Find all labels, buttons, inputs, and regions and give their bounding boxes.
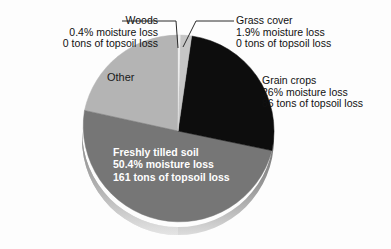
callout-grass-cover-topsoil: 0 tons of topsoil loss — [236, 38, 331, 50]
slice-label-freshly-tilled-soil-topsoil: 161 tons of topsoil loss — [113, 171, 230, 183]
slice-label-freshly-tilled-soil: Freshly tilled soil 50.4% moisture loss … — [113, 146, 230, 183]
pie-chart-figure: Woods 0.4% moisture loss 0 tons of topso… — [0, 0, 391, 249]
callout-grain-crops-title: Grain crops — [262, 75, 363, 87]
callout-grass-cover-title: Grass cover — [236, 15, 331, 27]
pie-slice-grain-crops — [178, 36, 274, 151]
callout-grain-crops-topsoil: 86 tons of topsoil loss — [262, 98, 363, 110]
callout-woods-title: Woods — [8, 15, 158, 27]
callout-woods: Woods 0.4% moisture loss 0 tons of topso… — [8, 15, 158, 50]
slice-label-freshly-tilled-soil-title: Freshly tilled soil — [113, 146, 230, 158]
slice-label-freshly-tilled-soil-moisture: 50.4% moisture loss — [113, 158, 230, 170]
callout-grain-crops: Grain crops 26% moisture loss 86 tons of… — [262, 75, 363, 110]
callout-woods-topsoil: 0 tons of topsoil loss — [8, 38, 158, 50]
callout-grass-cover: Grass cover 1.9% moisture loss 0 tons of… — [236, 15, 331, 50]
slice-label-other: Other — [107, 71, 135, 83]
